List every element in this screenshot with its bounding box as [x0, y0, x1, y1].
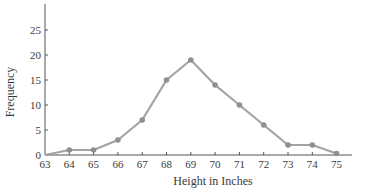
- data-point-marker: [285, 142, 291, 148]
- frequency-line: [45, 60, 337, 155]
- y-tick-label: 10: [30, 99, 42, 111]
- x-tick-label: 75: [331, 158, 343, 170]
- x-tick-label: 71: [234, 158, 245, 170]
- data-point-marker: [188, 57, 194, 63]
- data-point-marker: [261, 122, 267, 128]
- y-tick-label: 15: [30, 74, 42, 86]
- data-point-marker: [164, 77, 170, 83]
- y-tick-label: 20: [30, 49, 42, 61]
- x-tick-label: 70: [210, 158, 222, 170]
- data-point-marker: [139, 117, 145, 123]
- data-point-marker: [115, 137, 121, 143]
- y-axis-label: Frequency: [3, 67, 17, 118]
- x-tick-label: 69: [185, 158, 197, 170]
- data-point-marker: [334, 151, 340, 157]
- y-tick-label: 25: [30, 24, 42, 36]
- x-tick-label: 64: [64, 158, 76, 170]
- x-tick-label: 73: [283, 158, 295, 170]
- x-tick-label: 74: [307, 158, 319, 170]
- x-tick-label: 68: [161, 158, 173, 170]
- data-point-marker: [237, 102, 243, 108]
- x-tick-label: 65: [88, 158, 100, 170]
- x-tick-label: 67: [137, 158, 149, 170]
- x-tick-label: 72: [258, 158, 269, 170]
- x-axis-label: Height in Inches: [173, 174, 253, 188]
- data-point-marker: [212, 82, 218, 88]
- x-tick-label: 66: [112, 158, 124, 170]
- data-point-marker: [67, 147, 73, 153]
- frequency-polygon-chart: 0510152025 63646566676869707172737475 Fr…: [0, 0, 369, 193]
- data-point-marker: [91, 147, 97, 153]
- axes: [45, 4, 352, 155]
- data-point-marker: [310, 142, 316, 148]
- y-tick-label: 5: [36, 124, 42, 136]
- data-series: [45, 57, 339, 156]
- x-tick-label: 63: [40, 158, 52, 170]
